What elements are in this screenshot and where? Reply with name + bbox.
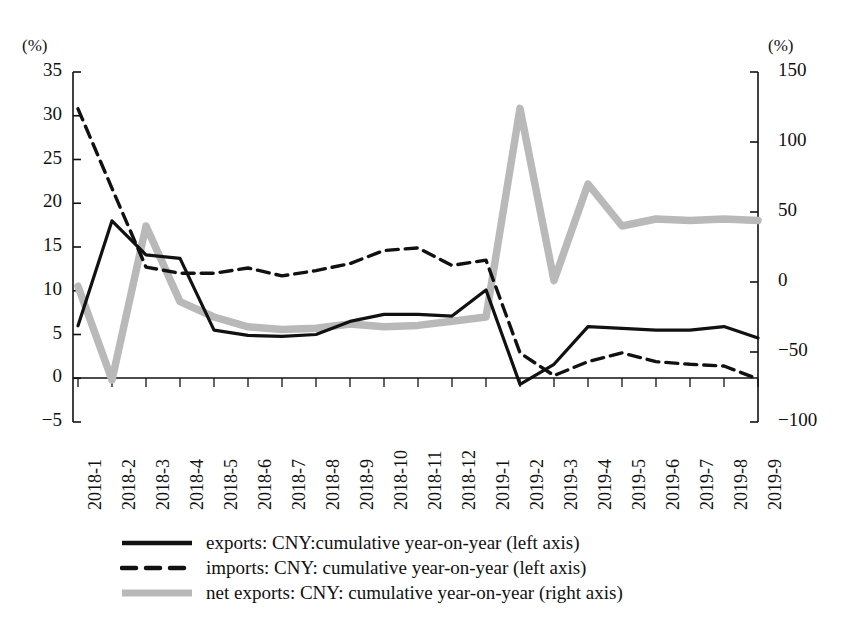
x-axis-tick-label: 2019-3 — [561, 459, 582, 510]
legend-item: exports: CNY:cumulative year-on-year (le… — [120, 530, 760, 555]
left-axis-tick-label: 35 — [18, 59, 62, 81]
right-axis-tick-label: −100 — [778, 409, 828, 431]
chart-figure: (%) (%) 35302520151050−5 150100500−50−10… — [0, 0, 843, 623]
left-axis-tick-label: 15 — [18, 234, 62, 256]
dashed-line-key — [120, 559, 194, 577]
series-net-exports-line — [78, 108, 758, 380]
chart-legend: exports: CNY:cumulative year-on-year (le… — [120, 530, 760, 605]
x-axis-tick-label: 2018-4 — [187, 459, 208, 510]
x-axis-tick-label: 2019-7 — [697, 459, 718, 510]
x-axis-tick-label: 2018-1 — [85, 459, 106, 510]
right-axis-tick-label: 0 — [778, 269, 828, 291]
series-imports-line — [78, 109, 758, 379]
x-axis-tick-label: 2018-6 — [255, 459, 276, 510]
legend-item: imports: CNY: cumulative year-on-year (l… — [120, 555, 760, 580]
left-axis-tick-label: 30 — [18, 103, 62, 125]
x-axis-tick-label: 2018-7 — [289, 459, 310, 510]
left-axis-tick-label: 10 — [18, 278, 62, 300]
legend-label: imports: CNY: cumulative year-on-year (l… — [206, 557, 586, 579]
x-axis-tick-label: 2019-8 — [731, 459, 752, 510]
left-axis-tick-label: 0 — [18, 365, 62, 387]
x-axis-tick-label: 2018-9 — [357, 459, 378, 510]
x-axis-tick-label: 2018-3 — [153, 459, 174, 510]
x-axis-tick-label: 2018-2 — [119, 459, 140, 510]
right-axis-tick-label: 50 — [778, 199, 828, 221]
x-axis-tick-label: 2019-5 — [629, 459, 650, 510]
gray-line-key — [120, 584, 194, 602]
legend-label: exports: CNY:cumulative year-on-year (le… — [206, 532, 580, 554]
left-axis-tick-label: 5 — [18, 322, 62, 344]
left-axis-tick-label: 25 — [18, 147, 62, 169]
x-axis-tick-label: 2019-2 — [527, 459, 548, 510]
solid-line-key — [120, 534, 194, 552]
right-axis-tick-label: 150 — [778, 59, 828, 81]
right-axis-tick-label: −50 — [778, 339, 828, 361]
x-axis-tick-label: 2019-4 — [595, 459, 616, 510]
x-axis-tick-label: 2019-9 — [765, 459, 786, 510]
x-axis-tick-label: 2018-5 — [221, 459, 242, 510]
x-axis-tick-label: 2019-1 — [493, 459, 514, 510]
x-axis-tick-label: 2018-12 — [459, 450, 480, 510]
x-axis-tick-label: 2018-11 — [425, 451, 446, 510]
x-axis-tick-label: 2018-10 — [391, 450, 412, 510]
x-axis-tick-label: 2018-8 — [323, 459, 344, 510]
legend-label: net exports: CNY: cumulative year-on-yea… — [206, 582, 623, 604]
left-axis-tick-label: 20 — [18, 190, 62, 212]
left-axis-tick-label: −5 — [18, 409, 62, 431]
legend-item: net exports: CNY: cumulative year-on-yea… — [120, 580, 760, 605]
x-axis-tick-label: 2019-6 — [663, 459, 684, 510]
right-axis-tick-label: 100 — [778, 129, 828, 151]
